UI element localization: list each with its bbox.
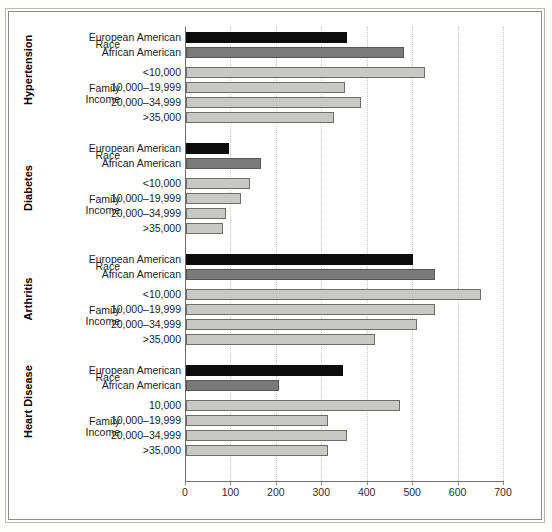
subgroup-label: FamilyIncome — [60, 83, 120, 105]
x-axis-tick-label: 0 — [182, 486, 188, 498]
bar — [186, 143, 229, 154]
x-axis-tick-label: 300 — [313, 486, 331, 498]
subgroup-label: Race — [60, 150, 120, 161]
figure-container: 0100200300400500600700European AmericanA… — [0, 0, 552, 532]
x-gridline — [458, 27, 460, 481]
x-axis-tick-label: 600 — [449, 486, 467, 498]
bar — [186, 32, 347, 43]
bar-category-label: <10,000 — [9, 66, 185, 78]
subgroup-label: FamilyIncome — [60, 194, 120, 216]
bar — [186, 223, 223, 234]
x-axis-tick — [276, 481, 277, 485]
bar — [186, 208, 226, 219]
subgroup-label: Race — [60, 372, 120, 383]
group-title: Diabetes — [22, 160, 34, 216]
x-axis-line — [185, 481, 504, 482]
bar — [186, 254, 413, 265]
x-axis-tick — [230, 481, 231, 485]
x-axis-tick-label: 500 — [403, 486, 421, 498]
bar — [186, 269, 435, 280]
bar-category-label: >35,000 — [9, 111, 185, 123]
group-title: Arthritis — [22, 271, 34, 327]
bar — [186, 47, 404, 58]
x-axis-tick-label: 700 — [494, 486, 512, 498]
bar-category-label: <10,000 — [9, 288, 185, 300]
x-axis-tick-label: 400 — [358, 486, 376, 498]
x-gridline — [503, 27, 505, 481]
x-axis-tick — [412, 481, 413, 485]
bar — [186, 97, 361, 108]
bar — [186, 430, 347, 441]
bar — [186, 400, 400, 411]
bar — [186, 67, 425, 78]
bar — [186, 415, 328, 426]
bar — [186, 82, 345, 93]
x-axis-tick — [367, 481, 368, 485]
x-axis-tick-label: 100 — [222, 486, 240, 498]
subgroup-label: Race — [60, 39, 120, 50]
x-axis-tick — [503, 481, 504, 485]
bar-category-label: 10,000 — [9, 399, 185, 411]
bar — [186, 178, 250, 189]
subgroup-label: FamilyIncome — [60, 305, 120, 327]
group-title: Heart Disease — [22, 382, 34, 438]
x-axis-tick-label: 200 — [267, 486, 285, 498]
bar — [186, 334, 375, 345]
bar — [186, 112, 334, 123]
bar — [186, 319, 417, 330]
bar — [186, 158, 261, 169]
x-axis-tick — [321, 481, 322, 485]
bar — [186, 365, 343, 376]
bar-category-label: <10,000 — [9, 177, 185, 189]
x-axis-tick — [458, 481, 459, 485]
bar — [186, 445, 328, 456]
bar-chart-plot-area: 0100200300400500600700European AmericanA… — [0, 0, 552, 532]
bar — [186, 289, 481, 300]
subgroup-label: Race — [60, 261, 120, 272]
bar-category-label: >35,000 — [9, 222, 185, 234]
bar-category-label: >35,000 — [9, 444, 185, 456]
group-title: Hypertension — [22, 49, 34, 105]
bar — [186, 193, 241, 204]
subgroup-label: FamilyIncome — [60, 416, 120, 438]
bar — [186, 380, 279, 391]
bar — [186, 304, 435, 315]
bar-category-label: >35,000 — [9, 333, 185, 345]
x-axis-tick — [185, 481, 186, 485]
